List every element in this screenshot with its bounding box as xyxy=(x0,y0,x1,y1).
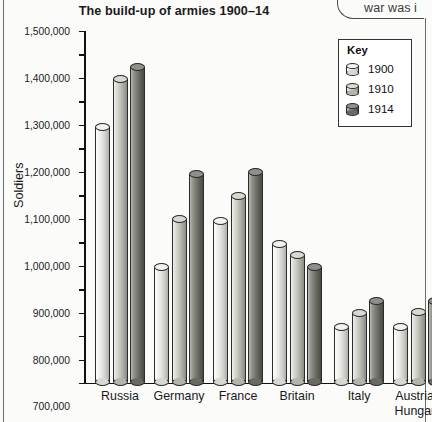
bar-body xyxy=(231,196,246,383)
bar-base-ellipse xyxy=(393,378,408,386)
bar-body xyxy=(307,267,322,382)
bar-top-ellipse xyxy=(130,63,145,71)
bar xyxy=(172,215,187,382)
bar-top-ellipse xyxy=(213,217,228,225)
bar-group xyxy=(154,30,204,382)
y-axis-tick-label: 1,300,000 xyxy=(24,119,70,130)
bar xyxy=(307,263,322,382)
y-axis-tick: 700,000 xyxy=(79,219,85,220)
bar xyxy=(130,63,145,383)
bar-base-ellipse xyxy=(113,378,128,386)
y-axis-tick: 1,200,000 xyxy=(79,101,85,102)
bar-base-ellipse xyxy=(248,378,263,386)
y-axis-tick-label: 1,000,000 xyxy=(24,260,70,271)
y-axis-tick-label: 1,100,000 xyxy=(24,213,70,224)
bar-top-ellipse xyxy=(231,192,246,200)
bar-base-ellipse xyxy=(352,378,367,386)
y-axis-tick-label: 1,400,000 xyxy=(24,72,70,83)
chart-legend: Key 190019101914 xyxy=(338,39,412,127)
bar-body xyxy=(154,267,169,382)
bar xyxy=(113,75,128,383)
bar-base-ellipse xyxy=(411,378,426,386)
bar-group xyxy=(95,30,145,382)
bar xyxy=(428,297,432,382)
bar-body xyxy=(189,174,204,383)
bar-base-ellipse xyxy=(369,378,384,386)
bar-body xyxy=(272,244,287,382)
bar-base-ellipse xyxy=(95,378,110,386)
bar-body xyxy=(113,79,128,383)
legend-title: Key xyxy=(347,44,368,56)
y-axis-line xyxy=(84,31,86,384)
y-axis-tick-label: 1,200,000 xyxy=(24,166,70,177)
bar xyxy=(154,263,169,382)
bar-body xyxy=(411,312,426,382)
bar xyxy=(231,192,246,383)
bar-top-ellipse xyxy=(290,251,305,259)
bar xyxy=(352,309,367,382)
bar-base-ellipse xyxy=(172,378,187,386)
y-axis-tick: 400,000 xyxy=(79,289,85,290)
y-axis-tick: 100,000 xyxy=(79,360,85,361)
bar xyxy=(248,168,263,382)
y-axis-tick: 800,000 xyxy=(79,195,85,196)
bar-body xyxy=(95,127,110,383)
bar xyxy=(411,308,426,382)
bar xyxy=(189,170,204,383)
bar xyxy=(290,251,305,383)
bar xyxy=(95,123,110,383)
y-axis-tick: 900,000 xyxy=(79,172,85,173)
y-axis-tick: 1,400,000 xyxy=(79,54,85,55)
x-axis-category-label: Austria– Hungary xyxy=(375,389,432,419)
bar-body xyxy=(334,327,349,382)
bar-base-ellipse xyxy=(189,378,204,386)
bar-base-ellipse xyxy=(213,378,228,386)
bar xyxy=(369,297,384,382)
bar-top-ellipse xyxy=(352,309,367,317)
y-axis-tick: 0 xyxy=(79,383,85,384)
bar-top-ellipse xyxy=(272,240,287,248)
bar-body xyxy=(393,327,408,382)
y-axis-tick: 1,300,000 xyxy=(79,78,85,79)
y-axis-tick: 300,000 xyxy=(79,313,85,314)
legend-label: 1910 xyxy=(368,82,394,95)
bar-base-ellipse xyxy=(154,378,169,386)
bar-body xyxy=(369,301,384,382)
bar-body xyxy=(352,313,367,382)
bar-base-ellipse xyxy=(307,378,322,386)
bar-base-ellipse xyxy=(428,378,432,386)
bar-top-ellipse xyxy=(411,308,426,316)
bar-base-ellipse xyxy=(231,378,246,386)
chart-title: The build-up of armies 1900–14 xyxy=(0,4,348,18)
bar-top-ellipse xyxy=(113,75,128,83)
bar-body xyxy=(248,172,263,382)
bar-body xyxy=(130,67,145,383)
bar-base-ellipse xyxy=(130,378,145,386)
y-axis-tick: 1,000,000 xyxy=(79,148,85,149)
bar-base-ellipse xyxy=(272,378,287,386)
y-axis-tick: 600,000 xyxy=(79,242,85,243)
y-axis-tick: 1,500,000 xyxy=(79,31,85,32)
legend-swatch-icon xyxy=(346,103,359,116)
bar-top-ellipse xyxy=(95,123,110,131)
y-axis-tick: 1,100,000 xyxy=(79,125,85,126)
bar xyxy=(393,323,408,382)
legend-label: 1900 xyxy=(368,62,394,75)
bar-chart: The build-up of armies 1900–14 Soldiers … xyxy=(0,0,432,422)
bar-body xyxy=(213,221,228,383)
bar-body xyxy=(428,301,432,382)
bar xyxy=(272,240,287,382)
bar-group xyxy=(272,30,322,382)
y-axis-tick: 200,000 xyxy=(79,336,85,337)
bar-group xyxy=(213,30,263,382)
y-axis-tick: 500,000 xyxy=(79,266,85,267)
y-axis-tick-label: 700,000 xyxy=(33,401,70,412)
bar-base-ellipse xyxy=(334,378,349,386)
legend-label: 1914 xyxy=(368,102,394,115)
legend-swatch-icon xyxy=(346,63,359,76)
y-axis-tick-label: 800,000 xyxy=(33,354,70,365)
bar-top-ellipse xyxy=(189,170,204,178)
bar xyxy=(213,217,228,383)
bar-body xyxy=(172,219,187,382)
bar xyxy=(334,323,349,382)
